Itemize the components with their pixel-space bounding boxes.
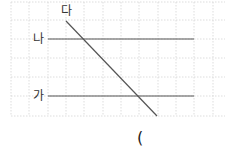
label-da: 다 <box>61 5 72 17</box>
line-da <box>66 21 157 116</box>
label-na: 나 <box>33 33 44 45</box>
grid-diagram <box>0 0 225 150</box>
answer-paren: ( <box>137 130 143 146</box>
label-ga: 가 <box>33 90 44 102</box>
